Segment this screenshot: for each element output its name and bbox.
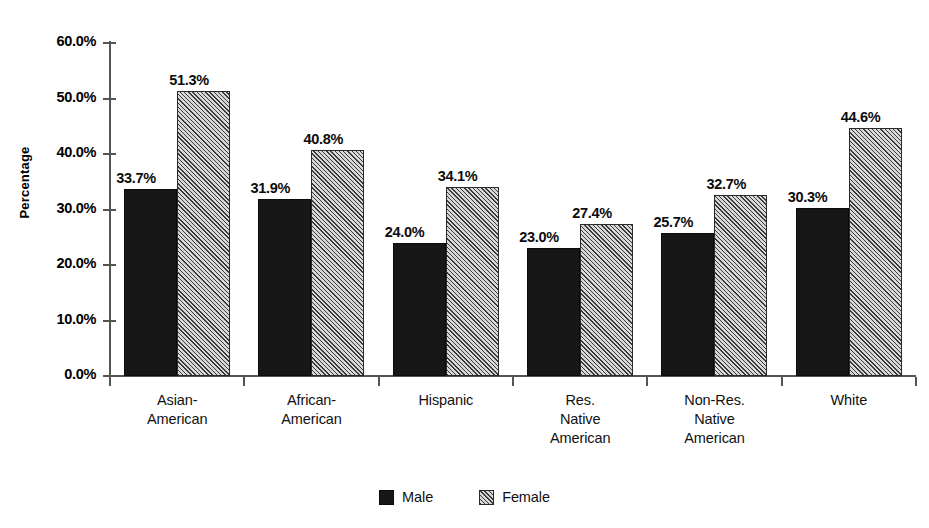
y-axis-tick-label: 60.0%: [0, 33, 96, 49]
category-label-line: Hispanic: [418, 392, 473, 408]
x-axis-divider-tick: [646, 377, 648, 386]
category-label-line: Native: [694, 411, 735, 427]
bar-male[interactable]: [796, 208, 849, 376]
bar-male[interactable]: [258, 199, 311, 376]
bar-group: 24.0%34.1%: [379, 43, 513, 376]
bar-female[interactable]: [580, 224, 633, 376]
category-label-line: Asian-: [157, 392, 198, 408]
bar-group: 30.3%44.6%: [782, 43, 916, 376]
bar-value-label: 33.7%: [116, 170, 156, 186]
bar-group: 25.7%32.7%: [647, 43, 781, 376]
bar-value-label: 32.7%: [706, 176, 746, 192]
x-axis-category-label: African-American: [244, 391, 378, 429]
bar-value-label: 31.9%: [250, 180, 290, 196]
category-label-line: American: [281, 411, 341, 427]
x-axis-category-label: Asian-American: [110, 391, 244, 429]
category-label-line: African-: [287, 392, 336, 408]
bar-female[interactable]: [311, 150, 364, 376]
category-label-line: Native: [560, 411, 601, 427]
y-axis-tick-label: 10.0%: [0, 311, 96, 327]
x-axis-divider-tick: [512, 377, 514, 386]
x-axis-category-label: Non-Res.NativeAmerican: [647, 391, 781, 448]
bar-value-label: 40.8%: [303, 131, 343, 147]
y-axis-tick-label: 50.0%: [0, 89, 96, 105]
category-label-line: Res.: [565, 392, 594, 408]
bar-value-label: 24.0%: [385, 224, 425, 240]
x-axis-category-label: Res.NativeAmerican: [513, 391, 647, 448]
x-axis-divider-tick: [378, 377, 380, 386]
legend-swatch-male: [379, 490, 394, 505]
plot-area: 33.7%51.3%31.9%40.8%24.0%34.1%23.0%27.4%…: [110, 43, 916, 376]
chart-canvas: Percentage 0.0%10.0%20.0%30.0%40.0%50.0%…: [0, 0, 929, 528]
bar-value-label: 27.4%: [572, 205, 612, 221]
legend-label: Male: [402, 489, 433, 505]
y-axis-tick-label: 30.0%: [0, 200, 96, 216]
bar-value-label: 25.7%: [653, 214, 693, 230]
legend-swatch-female: [479, 490, 494, 505]
category-label-line: American: [684, 430, 744, 446]
x-axis-divider-tick: [915, 377, 917, 386]
legend-item[interactable]: Male: [379, 489, 433, 505]
x-axis-divider-tick: [243, 377, 245, 386]
chart-title: [420, 0, 900, 4]
x-axis-divider-tick: [109, 377, 111, 386]
y-axis-tick-label: 20.0%: [0, 255, 96, 271]
bar-value-label: 30.3%: [788, 189, 828, 205]
bar-value-label: 34.1%: [438, 168, 478, 184]
bar-male[interactable]: [661, 233, 714, 376]
bar-female[interactable]: [714, 195, 767, 376]
bar-female[interactable]: [177, 91, 230, 376]
bar-value-label: 44.6%: [841, 109, 881, 125]
bar-group: 23.0%27.4%: [513, 43, 647, 376]
x-axis-divider-tick: [781, 377, 783, 386]
legend-label: Female: [502, 489, 550, 505]
category-label-line: White: [831, 392, 868, 408]
bar-male[interactable]: [527, 248, 580, 376]
category-label-line: American: [147, 411, 207, 427]
y-axis-tick-label: 40.0%: [0, 144, 96, 160]
bar-male[interactable]: [393, 243, 446, 376]
bar-value-label: 51.3%: [169, 72, 209, 88]
category-label-line: American: [550, 430, 610, 446]
bar-male[interactable]: [124, 189, 177, 376]
bar-group: 31.9%40.8%: [244, 43, 378, 376]
chart-legend: MaleFemale: [0, 489, 929, 505]
bar-female[interactable]: [849, 128, 902, 376]
bar-value-label: 23.0%: [519, 229, 559, 245]
bar-female[interactable]: [446, 187, 499, 376]
x-axis-category-label: Hispanic: [379, 391, 513, 410]
x-axis-category-label: White: [782, 391, 916, 410]
legend-item[interactable]: Female: [479, 489, 550, 505]
category-label-line: Non-Res.: [684, 392, 744, 408]
bar-group: 33.7%51.3%: [110, 43, 244, 376]
y-axis-tick-label: 0.0%: [0, 366, 96, 382]
